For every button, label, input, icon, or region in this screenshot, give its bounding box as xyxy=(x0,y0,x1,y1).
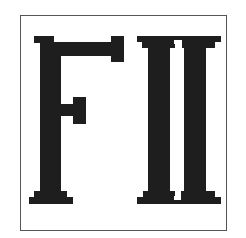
letter-f xyxy=(29,36,124,204)
fii-logo-icon xyxy=(0,0,246,238)
letter-ii xyxy=(137,36,221,204)
